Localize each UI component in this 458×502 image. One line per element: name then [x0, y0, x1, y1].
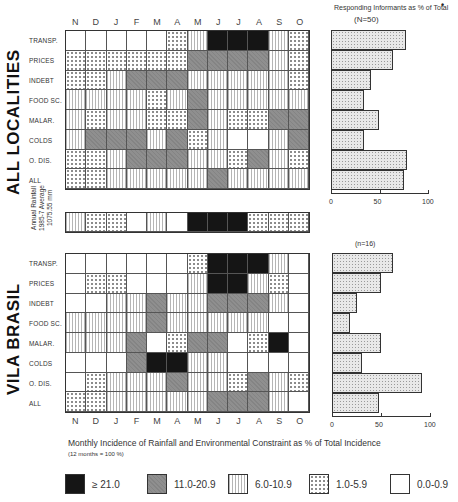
heatmap-cell [228, 90, 248, 110]
month-label: O [290, 17, 310, 27]
heatmap-cell [188, 150, 208, 170]
month-label: J [208, 416, 228, 426]
row-label: PRICES [29, 280, 54, 287]
heatmap-cell [188, 392, 208, 412]
heatmap-cell [208, 392, 228, 412]
heatmap-cell [228, 294, 248, 314]
axis-tick-label: 0 [329, 198, 333, 205]
heatmap-cell [66, 353, 86, 373]
legend-swatch-black [65, 474, 85, 494]
heatmap-cell [66, 313, 86, 333]
heatmap-cell [248, 294, 268, 314]
heatmap-cell [167, 51, 187, 71]
heatmap-cell [208, 169, 228, 189]
heatmap-cell [228, 110, 248, 130]
heatmap-cell [66, 31, 86, 51]
heatmap-cell [248, 254, 268, 274]
bar-y-axis [332, 253, 333, 417]
heatmap-cell [289, 274, 309, 294]
heatmap-cell [167, 373, 187, 393]
heatmap-cell [66, 90, 86, 110]
heatmap-cell [66, 71, 86, 91]
month-label: F [126, 416, 146, 426]
row-label: MALAR. [29, 340, 54, 347]
heatmap-cell [107, 373, 127, 393]
row-label: ALL [29, 177, 41, 184]
bar-header: Responding Informants as % of Total [334, 4, 448, 11]
pct-bar [331, 150, 407, 170]
heatmap-cell [86, 373, 106, 393]
heatmap-cell [188, 51, 208, 71]
heatmap-cell [167, 130, 187, 150]
row-label: COLDS [29, 137, 52, 144]
heatmap-cell [167, 169, 187, 189]
heatmap-cell [269, 392, 289, 412]
heatmap-cell [107, 150, 127, 170]
axis-tick [428, 190, 429, 194]
row-label: FOOD SC. [29, 97, 62, 104]
heatmap-cell [228, 392, 248, 412]
heatmap-cell [86, 392, 106, 412]
n-label-vila: (n=16) [355, 240, 375, 247]
month-label: F [126, 17, 146, 27]
heatmap-cell [228, 333, 248, 353]
heatmap-cell [188, 130, 208, 150]
legend-label: ≥ 21.0 [92, 479, 120, 490]
heatmap-cell [167, 313, 187, 333]
heatmap-cell [66, 130, 86, 150]
heatmap-cell [188, 353, 208, 373]
heatmap-cell [269, 150, 289, 170]
heatmap-cell [167, 392, 187, 412]
heatmap-cell [147, 373, 167, 393]
heatmap-cell [167, 294, 187, 314]
heatmap-cell [86, 51, 106, 71]
heatmap-cell [107, 254, 127, 274]
rainfall-strip [65, 212, 310, 233]
heatmap-cell [147, 294, 167, 314]
heatmap-cell [66, 254, 86, 274]
row-label: INDEBT [29, 77, 54, 84]
month-label: J [208, 17, 228, 27]
pct-bar [331, 130, 364, 150]
heatmap-cell [248, 51, 268, 71]
heatmap-cell [188, 71, 208, 91]
pct-bar [332, 273, 381, 293]
heatmap-cell [127, 274, 147, 294]
heatmap-cell [107, 90, 127, 110]
heatmap-cell [127, 51, 147, 71]
rainfall-cell [147, 213, 167, 232]
heatmap-cell [167, 110, 187, 130]
rainfall-cell [228, 213, 248, 232]
row-label: MALAR. [29, 117, 54, 124]
bar-header-asterisk: • [441, 0, 444, 10]
heatmap-cell [188, 294, 208, 314]
legend-label: 11.0-20.9 [174, 479, 216, 490]
heatmap-cell [66, 274, 86, 294]
heatmap-cell [208, 353, 228, 373]
rainfall-cell [86, 213, 106, 232]
pct-bar [332, 313, 350, 333]
heatmap-cell [127, 333, 147, 353]
rainfall-cell [208, 213, 228, 232]
heatmap-cell [269, 294, 289, 314]
heatmap-cell [127, 373, 147, 393]
pct-bar [331, 50, 393, 70]
month-label: S [269, 17, 289, 27]
heatmap-cell [167, 254, 187, 274]
heatmap-cell [147, 71, 167, 91]
heatmap-cell [248, 169, 268, 189]
heatmap-cell [248, 353, 268, 373]
heatmap-cell [208, 31, 228, 51]
heatmap-cell [188, 254, 208, 274]
heatmap-cell [127, 71, 147, 91]
pct-bar [331, 70, 371, 90]
rainfall-cell [107, 213, 127, 232]
heatmap-cell [269, 51, 289, 71]
heatmap-cell [86, 71, 106, 91]
heatmap-cell [228, 254, 248, 274]
month-label: J [106, 17, 126, 27]
axis-tick-label: 100 [422, 198, 434, 205]
heatmap-grid [65, 253, 310, 413]
heatmap-cell [269, 373, 289, 393]
heatmap-cell [86, 313, 106, 333]
